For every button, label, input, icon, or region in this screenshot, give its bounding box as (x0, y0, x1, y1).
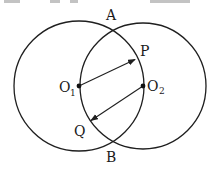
label-o1-sub: 1 (70, 88, 76, 98)
point-o2 (141, 84, 146, 89)
label-o2-sub: 2 (159, 86, 165, 96)
arrow-o2-to-q (91, 86, 143, 121)
label-o2: O (147, 78, 158, 94)
point-o1 (77, 84, 82, 89)
label-o1: O (59, 79, 70, 95)
label-b: B (106, 149, 116, 165)
geometry-diagram: A P Q B O 1 O 2 (0, 0, 216, 173)
cropped-header-text (4, 0, 190, 3)
arrow-o1-to-p (79, 60, 135, 87)
label-p: P (140, 43, 149, 59)
label-q: Q (74, 123, 85, 139)
label-a: A (105, 7, 117, 23)
